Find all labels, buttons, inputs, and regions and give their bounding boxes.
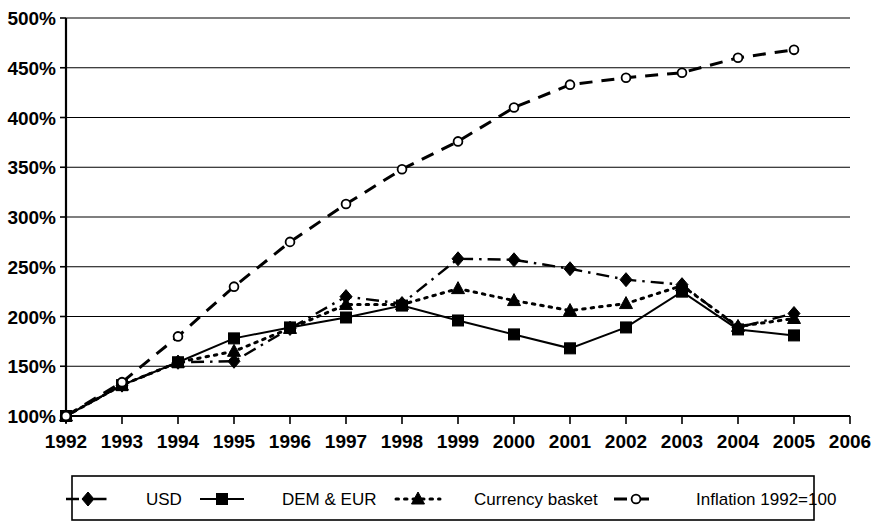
- data-point-marker: [452, 252, 464, 266]
- data-point-marker: [734, 53, 743, 62]
- data-point-marker: [678, 68, 687, 77]
- data-point-marker: [510, 103, 519, 112]
- x-tick-label: 2004: [717, 431, 760, 452]
- y-tick-label: 200%: [7, 307, 56, 328]
- data-point-marker: [341, 312, 352, 323]
- x-tick-label: 1994: [157, 431, 200, 452]
- y-tick-labels: 100%150%200%250%300%350%400%450%500%: [7, 8, 56, 427]
- x-tick-label: 1993: [101, 431, 143, 452]
- series-markers-1: [61, 286, 800, 421]
- x-tick-label: 2003: [661, 431, 703, 452]
- x-tick-label: 2000: [493, 431, 535, 452]
- data-point-marker: [790, 45, 799, 54]
- y-tick-label: 100%: [7, 406, 56, 427]
- data-point-marker: [286, 237, 295, 246]
- x-tick-label: 1992: [45, 431, 87, 452]
- y-axis: [60, 18, 66, 416]
- data-point-marker: [622, 73, 631, 82]
- data-point-marker: [454, 137, 463, 146]
- x-axis: [66, 416, 850, 424]
- data-point-marker: [509, 329, 520, 340]
- x-tick-label: 1997: [325, 431, 367, 452]
- data-point-marker: [229, 333, 240, 344]
- y-tick-label: 150%: [7, 356, 56, 377]
- x-tick-label: 2005: [773, 431, 816, 452]
- data-point-marker: [566, 80, 575, 89]
- data-point-marker: [230, 282, 239, 291]
- data-point-marker: [620, 273, 632, 287]
- y-tick-label: 350%: [7, 157, 56, 178]
- legend-item-1[interactable]: DEM & EUR: [200, 490, 376, 509]
- legend-item-2[interactable]: Currency basket: [396, 490, 598, 509]
- legend-item-3[interactable]: Inflation 1992=100: [614, 490, 836, 509]
- data-point-marker: [632, 495, 641, 504]
- data-point-marker: [564, 262, 576, 276]
- legend-label-1: DEM & EUR: [282, 490, 376, 509]
- x-tick-label: 1995: [213, 431, 256, 452]
- x-tick-label: 1996: [269, 431, 311, 452]
- x-tick-label: 1999: [437, 431, 479, 452]
- y-tick-label: 500%: [7, 8, 56, 29]
- series-line-2: [66, 286, 794, 416]
- series-markers-0: [60, 252, 800, 423]
- x-tick-label: 2002: [605, 431, 647, 452]
- x-tick-label: 2006: [829, 431, 871, 452]
- data-point-marker: [398, 165, 407, 174]
- y-tick-label: 300%: [7, 207, 56, 228]
- data-point-marker: [342, 200, 351, 209]
- data-point-marker: [82, 492, 94, 506]
- data-point-marker: [789, 330, 800, 341]
- data-point-marker: [217, 494, 228, 505]
- series-markers-2: [60, 279, 801, 421]
- y-tick-label: 250%: [7, 257, 56, 278]
- line-chart: 100%150%200%250%300%350%400%450%500% 199…: [0, 0, 876, 525]
- data-point-marker: [453, 315, 464, 326]
- legend-label-0: USD: [146, 490, 182, 509]
- data-point-marker: [565, 343, 576, 354]
- y-tick-label: 450%: [7, 58, 56, 79]
- series-line-1: [66, 292, 794, 416]
- x-tick-label: 1998: [381, 431, 423, 452]
- legend-label-2: Currency basket: [474, 490, 598, 509]
- x-tick-label: 2001: [549, 431, 592, 452]
- legend-label-3: Inflation 1992=100: [696, 490, 836, 509]
- data-point-marker: [118, 378, 127, 387]
- data-point-marker: [508, 253, 520, 267]
- data-point-marker: [620, 297, 633, 309]
- x-tick-labels: 1992199319941995199619971998199920002001…: [45, 431, 871, 452]
- data-point-marker: [174, 332, 183, 341]
- y-tick-label: 400%: [7, 108, 56, 129]
- data-point-marker: [452, 282, 465, 294]
- data-point-marker: [621, 322, 632, 333]
- legend-item-0[interactable]: USD: [66, 490, 182, 509]
- data-point-marker: [62, 412, 71, 421]
- legend: USDDEM & EURCurrency basketInflation 199…: [66, 476, 836, 520]
- chart-container: 100%150%200%250%300%350%400%450%500% 199…: [0, 0, 876, 525]
